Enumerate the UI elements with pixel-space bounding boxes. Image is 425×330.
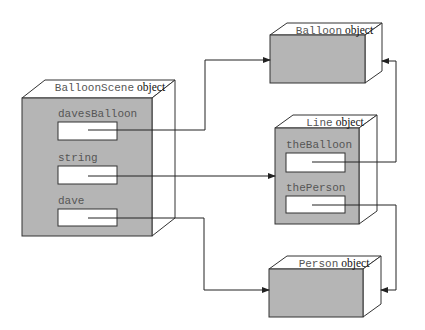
field-label: dave	[58, 195, 84, 207]
object-title: Balloonobject	[296, 24, 374, 37]
object-reference-diagram: BalloonSceneobjectdavesBalloonstringdave…	[0, 0, 425, 330]
object-title: BalloonSceneobject	[55, 81, 166, 94]
box-side-face	[359, 115, 377, 224]
balloon-object: Balloonobject	[270, 23, 382, 83]
line-object: LineobjecttheBalloonthePerson	[275, 115, 377, 224]
field-label: thePerson	[286, 182, 345, 194]
field-label: theBalloon	[286, 139, 352, 151]
reference-field-box	[58, 166, 117, 184]
object-title: Personobject	[299, 257, 371, 270]
person-object: Personobject	[269, 256, 381, 317]
object-title: Lineobject	[306, 116, 364, 129]
reference-field-box	[58, 122, 117, 140]
box-front-face	[270, 35, 365, 83]
field-label: string	[58, 152, 98, 164]
objects-layer: BalloonSceneobjectdavesBalloonstringdave…	[22, 23, 382, 317]
balloonscene-object: BalloonSceneobjectdavesBalloonstringdave	[22, 80, 175, 236]
box-front-face	[269, 269, 363, 317]
field-label: davesBalloon	[58, 108, 137, 120]
box-side-face	[152, 80, 175, 236]
